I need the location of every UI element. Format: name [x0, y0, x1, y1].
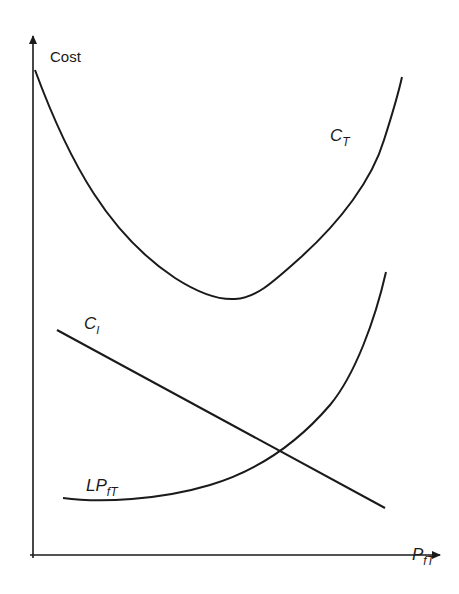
lpft-curve	[63, 272, 386, 500]
cost-chart: Cost CT CI LPfT PfT	[0, 0, 459, 594]
x-axis-label: PfT	[412, 545, 436, 568]
ct-label: CT	[330, 126, 351, 149]
lpft-label: LPfT	[86, 476, 119, 499]
ct-curve	[35, 70, 402, 299]
ci-label: CI	[84, 314, 99, 336]
y-axis-label: Cost	[50, 48, 82, 65]
